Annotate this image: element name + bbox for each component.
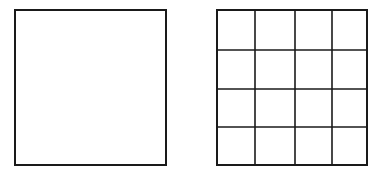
plain-square-outline: [15, 10, 166, 165]
grid-square: [217, 10, 367, 165]
diagram-canvas: [0, 0, 381, 175]
grid-square-outline: [217, 10, 367, 165]
plain-square: [15, 10, 166, 165]
